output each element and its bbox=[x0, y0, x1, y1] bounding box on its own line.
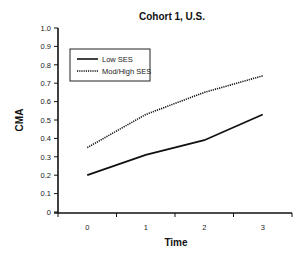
y-tick-label: 0.9 bbox=[41, 42, 51, 51]
legend: Low SESMod/High SES bbox=[70, 49, 151, 81]
y-axis: 00.10.20.30.40.50.60.70.80.91.0 bbox=[41, 24, 58, 217]
y-tick-label: 0.2 bbox=[41, 171, 51, 180]
x-axis: 0123 bbox=[54, 213, 292, 232]
y-axis-label: CMA bbox=[14, 109, 25, 132]
y-tick-label: 0 bbox=[47, 208, 51, 217]
chart-title: Cohort 1, U.S. bbox=[139, 11, 205, 22]
plot-lines bbox=[87, 76, 263, 175]
y-tick-label: 0.6 bbox=[41, 97, 51, 106]
y-tick-label: 0.4 bbox=[41, 134, 51, 143]
y-tick-label: 0.3 bbox=[41, 153, 51, 162]
series-line bbox=[87, 76, 263, 148]
x-tick-label: 1 bbox=[144, 223, 148, 232]
x-tick-label: 2 bbox=[202, 223, 206, 232]
x-tick-label: 0 bbox=[85, 223, 89, 232]
legend-label: Mod/High SES bbox=[102, 67, 151, 76]
y-tick-label: 1.0 bbox=[41, 24, 51, 33]
y-tick-label: 0.7 bbox=[41, 79, 51, 88]
y-tick-label: 0.8 bbox=[41, 61, 51, 70]
y-tick-label: 0.5 bbox=[41, 116, 51, 125]
line-chart: Cohort 1, U.S. 00.10.20.30.40.50.60.70.8… bbox=[0, 0, 306, 263]
x-axis-label: Time bbox=[164, 237, 188, 248]
legend-label: Low SES bbox=[102, 55, 133, 64]
series-line bbox=[87, 114, 263, 175]
x-tick-label: 3 bbox=[261, 223, 265, 232]
y-tick-label: 0.1 bbox=[41, 189, 51, 198]
